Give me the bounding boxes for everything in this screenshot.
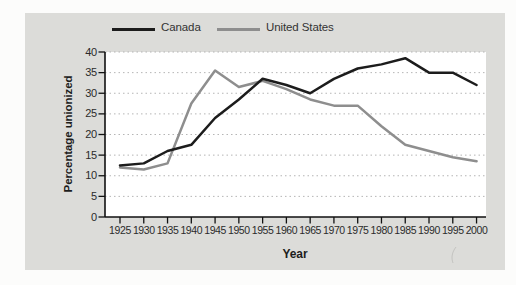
x-tick-label-2000: 2000: [462, 224, 492, 236]
y-tick-label-20: 20: [61, 128, 97, 140]
y-tick-label-10: 10: [61, 169, 97, 181]
figure-screenshot: Canada United States Percentage unionize…: [0, 0, 516, 285]
x-axis-title: Year: [283, 247, 308, 261]
y-tick-label-25: 25: [61, 107, 97, 119]
legend-line-united-states: [217, 28, 260, 31]
y-tick-label-5: 5: [61, 190, 97, 202]
scan-artifact: [452, 247, 456, 263]
legend-label-united-states: United States: [266, 21, 334, 33]
legend-label-canada: Canada: [161, 21, 201, 33]
line-chart: [0, 0, 516, 285]
y-tick-label-30: 30: [61, 87, 97, 99]
y-tick-label-35: 35: [61, 66, 97, 78]
y-tick-label-0: 0: [61, 211, 97, 223]
y-tick-label-40: 40: [61, 46, 97, 58]
legend-line-canada: [112, 28, 155, 31]
y-tick-label-15: 15: [61, 149, 97, 161]
